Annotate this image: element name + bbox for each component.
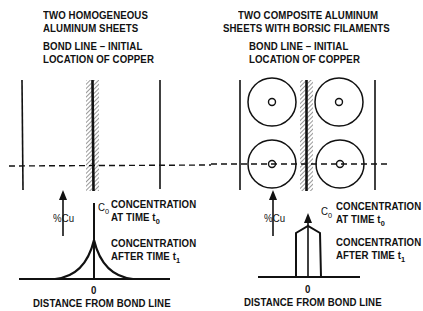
t1-subscript: 1 xyxy=(176,256,180,265)
c0-text: C xyxy=(98,201,105,213)
borsic-filament xyxy=(248,78,296,126)
right-conc-t1-line1: CONCENTRATION xyxy=(336,236,421,248)
right-conc-t0-line2: AT TIME t0 xyxy=(336,213,385,225)
c0-subscript: 0 xyxy=(328,211,332,220)
left-conc-t1-line1: CONCENTRATION xyxy=(111,237,196,249)
right-x-axis-label: DISTANCE FROM BOND LINE xyxy=(244,296,382,308)
right-conc-t1-line2: AFTER TIME t1 xyxy=(336,249,405,261)
conc-t0-text: AT TIME t xyxy=(111,211,156,223)
conc-t0-text: AT TIME t xyxy=(336,213,381,225)
right-conc-t0-line1: CONCENTRATION xyxy=(336,200,421,212)
t0-subscript: 0 xyxy=(381,219,385,228)
borsic-filament xyxy=(315,78,363,126)
left-title-line1: TWO HOMOGENEOUS xyxy=(43,9,148,21)
left-sheet-outer-edge xyxy=(22,80,23,190)
c0-subscript: 0 xyxy=(105,207,109,216)
conc-t1-text: AFTER TIME t xyxy=(336,249,401,261)
right-c0-label: C0 xyxy=(321,205,332,217)
left-title-line2: ALUMINUM SHEETS xyxy=(43,22,138,34)
right-bond-label-line1: BOND LINE – INITIAL xyxy=(249,40,348,52)
right-title-line1: TWO COMPOSITE ALUMINUM xyxy=(238,9,378,21)
right-bond-label-line2: LOCATION OF COPPER xyxy=(249,53,360,65)
t0-subscript: 0 xyxy=(156,217,160,226)
left-bond-label-line2: LOCATION OF COPPER xyxy=(43,53,154,65)
conc-t1-text: AFTER TIME t xyxy=(111,250,176,262)
left-x-axis-label: DISTANCE FROM BOND LINE xyxy=(33,297,171,309)
left-c0-label: C0 xyxy=(98,201,109,213)
left-bond-line xyxy=(93,80,94,191)
right-up-arrow-icon xyxy=(269,190,277,200)
left-sheets xyxy=(22,80,160,191)
right-sheets xyxy=(240,78,375,191)
t1-subscript: 1 xyxy=(401,255,405,264)
left-up-arrow-icon xyxy=(59,190,67,200)
left-conc-t0-line2: AT TIME t0 xyxy=(111,211,160,223)
c0-text: C xyxy=(321,205,328,217)
left-conc-t1-line2: AFTER TIME t1 xyxy=(111,250,180,262)
left-bond-label-line1: BOND LINE – INITIAL xyxy=(43,40,142,52)
right-title-line2: SHEETS WITH BORSIC FILAMENTS xyxy=(223,22,390,34)
left-conc-t0-line1: CONCENTRATION xyxy=(111,198,196,210)
left-y-axis-label: %Cu xyxy=(53,212,74,224)
right-spike-arrowhead-icon xyxy=(304,213,312,223)
right-y-axis-label: %Cu xyxy=(264,212,285,224)
right-x-origin-label: 0 xyxy=(305,283,310,295)
left-x-origin-label: 0 xyxy=(91,284,96,296)
left-section-dashed-line xyxy=(9,165,211,166)
